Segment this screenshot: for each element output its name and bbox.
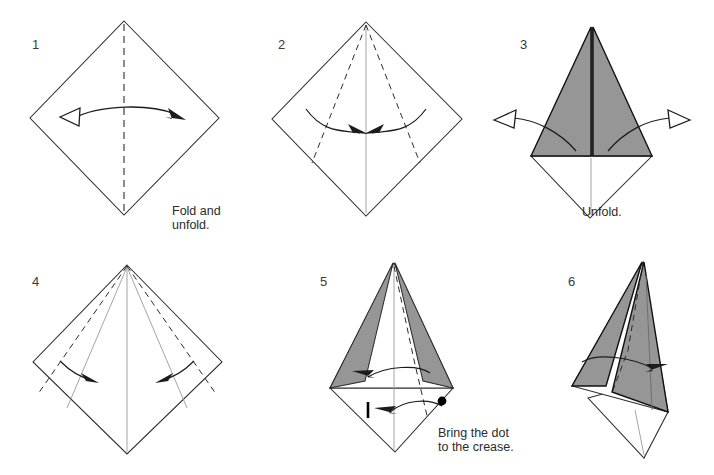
paper-diamond-outline <box>272 22 462 216</box>
step-number-6: 6 <box>568 275 575 288</box>
step-3-caption: Unfold. <box>582 205 622 219</box>
origami-step-3: 3 Unfold. <box>480 0 714 240</box>
origami-instruction-page: 1 Fold and unfold. 2 <box>0 0 714 475</box>
step-number-4: 4 <box>32 275 39 288</box>
paper-lower-diamond-white <box>330 388 453 452</box>
step-3-diagram <box>480 0 714 240</box>
step-5-caption: Bring the dot to the crease. <box>438 426 514 454</box>
arrow-head-hollow-unfold-right <box>668 110 690 128</box>
step-number-2: 2 <box>278 38 285 51</box>
step-number-1: 1 <box>32 38 39 51</box>
origami-step-5: 5 Bring the dot to the crease. <box>290 240 520 475</box>
reference-dot-marker <box>438 397 447 406</box>
origami-step-4: 4 <box>0 240 240 475</box>
step-6-diagram <box>540 240 714 475</box>
step-1-caption: Fold and unfold. <box>172 204 240 232</box>
origami-step-6: 6 <box>540 240 714 475</box>
origami-step-1: 1 Fold and unfold. <box>0 0 240 240</box>
step-2-diagram <box>240 0 480 240</box>
origami-step-2: 2 <box>240 0 480 240</box>
paper-diamond-outline <box>33 265 222 454</box>
arrow-head-hollow-unfold-left <box>494 110 516 128</box>
step-number-5: 5 <box>320 275 327 288</box>
step-number-3: 3 <box>520 38 527 51</box>
